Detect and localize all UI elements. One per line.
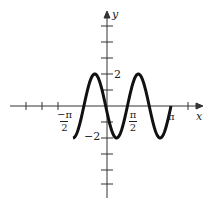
y-axis-arrow [104, 11, 110, 18]
x-tick-pi: π [168, 112, 175, 122]
x-tick-half-pi: π2 [129, 110, 137, 133]
y-tick-2: 2 [114, 69, 121, 80]
y-axis-label: y [112, 9, 118, 20]
chart-canvas [0, 0, 212, 206]
x-axis-arrow [196, 103, 203, 109]
y-tick-neg2: −2 [84, 131, 100, 142]
x-axis-label: x [196, 111, 202, 122]
x-tick-neg-half-pi: −π2 [57, 110, 72, 133]
